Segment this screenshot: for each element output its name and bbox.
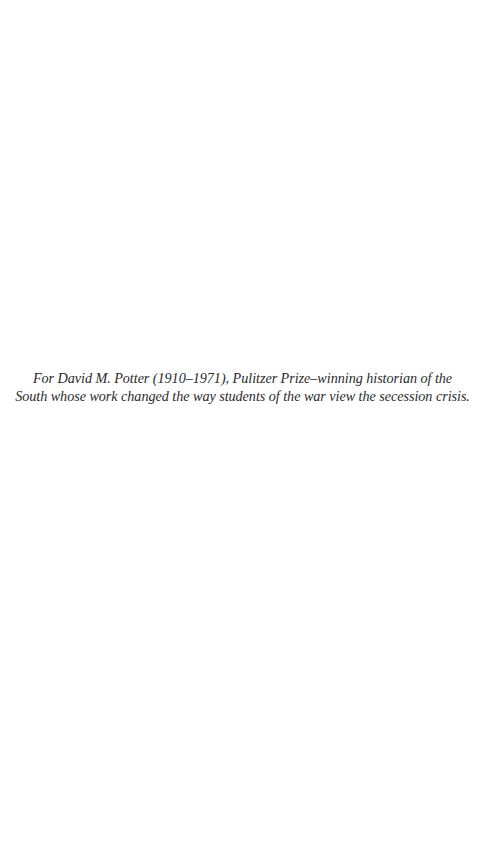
- dedication-line-1: For David M. Potter (1910–1971), Pulitze…: [0, 369, 485, 387]
- book-page: For David M. Potter (1910–1971), Pulitze…: [0, 0, 485, 859]
- dedication-line-2: South whose work changed the way student…: [0, 387, 485, 405]
- dedication-text: For David M. Potter (1910–1971), Pulitze…: [0, 369, 485, 405]
